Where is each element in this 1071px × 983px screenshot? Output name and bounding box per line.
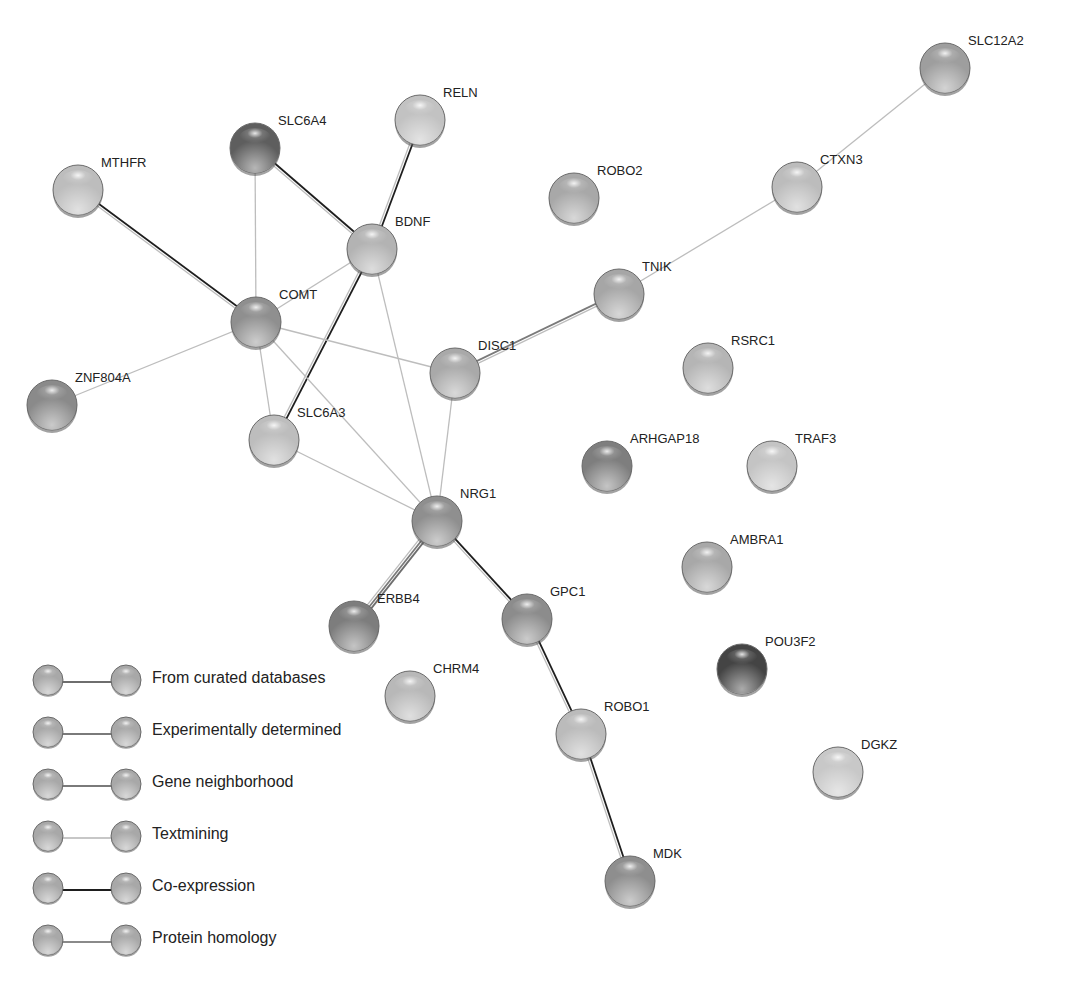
edge-legend: From curated databases Experimentally de… bbox=[30, 662, 410, 974]
edge-TNIK-CTXN3[interactable] bbox=[619, 187, 797, 294]
protein-sphere-icon bbox=[549, 173, 599, 226]
node-label: POU3F2 bbox=[765, 634, 816, 649]
node-label: DISC1 bbox=[478, 338, 516, 353]
node-slc6a3[interactable]: SLC6A3 bbox=[249, 405, 345, 468]
protein-sphere-icon bbox=[395, 95, 445, 148]
legend-edge-swatch-icon bbox=[30, 714, 145, 754]
node-pou3f2[interactable]: POU3F2 bbox=[717, 634, 816, 697]
node-ambra1[interactable]: AMBRA1 bbox=[682, 532, 783, 595]
edge-CTXN3-SLC12A2[interactable] bbox=[797, 68, 945, 187]
legend-edge-swatch-icon bbox=[30, 662, 145, 702]
protein-sphere-icon bbox=[594, 269, 644, 322]
edge-SLC6A3-NRG1[interactable] bbox=[274, 440, 437, 521]
protein-sphere-icon bbox=[231, 297, 281, 350]
node-disc1[interactable]: DISC1 bbox=[430, 338, 516, 401]
node-label: ARHGAP18 bbox=[630, 431, 699, 446]
node-label: COMT bbox=[279, 287, 317, 302]
node-label: ROBO1 bbox=[604, 699, 650, 714]
node-mdk[interactable]: MDK bbox=[605, 846, 682, 909]
protein-sphere-icon bbox=[27, 380, 77, 433]
node-rsrc1[interactable]: RSRC1 bbox=[683, 333, 775, 396]
node-label: GPC1 bbox=[550, 584, 585, 599]
node-label: SLC6A4 bbox=[278, 113, 326, 128]
protein-sphere-icon bbox=[249, 415, 299, 468]
node-nrg1[interactable]: NRG1 bbox=[412, 486, 496, 549]
node-label: AMBRA1 bbox=[730, 532, 783, 547]
legend-label: Experimentally determined bbox=[152, 721, 341, 739]
legend-edge-swatch-icon bbox=[30, 766, 145, 806]
legend-label: Textmining bbox=[152, 825, 228, 843]
node-label: MDK bbox=[653, 846, 682, 861]
node-label: TRAF3 bbox=[795, 431, 836, 446]
node-slc12a2[interactable]: SLC12A2 bbox=[920, 33, 1024, 96]
node-label: MTHFR bbox=[101, 155, 147, 170]
protein-sphere-icon bbox=[813, 747, 863, 800]
node-comt[interactable]: COMT bbox=[231, 287, 317, 350]
protein-sphere-icon bbox=[747, 441, 797, 494]
legend-item-textmining: Textmining bbox=[30, 818, 410, 870]
legend-item-experimental: Experimentally determined bbox=[30, 714, 410, 766]
protein-sphere-icon bbox=[920, 43, 970, 96]
node-label: CTXN3 bbox=[820, 152, 863, 167]
legend-label: From curated databases bbox=[152, 669, 325, 687]
node-label: RSRC1 bbox=[731, 333, 775, 348]
protein-sphere-icon bbox=[502, 594, 552, 647]
node-arhgap18[interactable]: ARHGAP18 bbox=[582, 431, 699, 494]
legend-label: Gene neighborhood bbox=[152, 773, 293, 791]
protein-sphere-icon bbox=[682, 542, 732, 595]
edge-COMT-DISC1[interactable] bbox=[256, 322, 455, 373]
node-label: DGKZ bbox=[861, 737, 897, 752]
node-tnik[interactable]: TNIK bbox=[594, 259, 672, 322]
legend-item-homology: Protein homology bbox=[30, 922, 410, 974]
edge-DISC1-TNIK[interactable] bbox=[454, 293, 619, 374]
node-label: CHRM4 bbox=[433, 661, 479, 676]
node-ctxn3[interactable]: CTXN3 bbox=[772, 152, 863, 215]
protein-sphere-icon bbox=[582, 441, 632, 494]
node-label: ZNF804A bbox=[75, 370, 131, 385]
edge-BDNF-NRG1[interactable] bbox=[372, 249, 437, 521]
protein-sphere-icon bbox=[329, 601, 379, 654]
node-label: NRG1 bbox=[460, 486, 496, 501]
protein-sphere-icon bbox=[430, 348, 480, 401]
node-label: ROBO2 bbox=[597, 163, 643, 178]
protein-sphere-icon bbox=[717, 644, 767, 697]
legend-label: Co-expression bbox=[152, 877, 255, 895]
node-label: BDNF bbox=[395, 214, 430, 229]
node-label: ERBB4 bbox=[377, 591, 420, 606]
node-label: SLC6A3 bbox=[297, 405, 345, 420]
protein-sphere-icon bbox=[412, 496, 462, 549]
protein-sphere-icon bbox=[556, 709, 606, 762]
legend-item-neighborhood: Gene neighborhood bbox=[30, 766, 410, 818]
node-gpc1[interactable]: GPC1 bbox=[502, 584, 585, 647]
edge-MTHFR-COMT[interactable] bbox=[77, 189, 257, 323]
protein-sphere-icon bbox=[347, 224, 397, 277]
node-dgkz[interactable]: DGKZ bbox=[813, 737, 897, 800]
legend-item-curated: From curated databases bbox=[30, 662, 410, 714]
node-label: RELN bbox=[443, 85, 478, 100]
legend-edge-swatch-icon bbox=[30, 870, 145, 910]
node-bdnf[interactable]: BDNF bbox=[347, 214, 430, 277]
protein-sphere-icon bbox=[230, 123, 280, 176]
legend-label: Protein homology bbox=[152, 929, 277, 947]
node-reln[interactable]: RELN bbox=[395, 85, 478, 148]
edge-COMT-ZNF804A[interactable] bbox=[52, 322, 256, 405]
protein-sphere-icon bbox=[772, 162, 822, 215]
legend-item-coexpression: Co-expression bbox=[30, 870, 410, 922]
node-label: TNIK bbox=[642, 259, 672, 274]
node-znf804a[interactable]: ZNF804A bbox=[27, 370, 131, 433]
node-label: SLC12A2 bbox=[968, 33, 1024, 48]
legend-edge-swatch-icon bbox=[30, 922, 145, 962]
legend-edge-swatch-icon bbox=[30, 818, 145, 858]
protein-sphere-icon bbox=[683, 343, 733, 396]
node-robo2[interactable]: ROBO2 bbox=[549, 163, 643, 226]
node-traf3[interactable]: TRAF3 bbox=[747, 431, 836, 494]
protein-sphere-icon bbox=[53, 165, 103, 218]
protein-sphere-icon bbox=[605, 856, 655, 909]
